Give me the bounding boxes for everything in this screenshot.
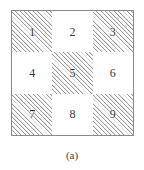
- three-by-three-grid: 1 2 3 4 5 6 7 8 9: [11, 10, 134, 136]
- figure-caption: (a): [0, 148, 144, 162]
- grid-cell-label-7: 7: [29, 108, 35, 120]
- grid-cell-label-5: 5: [69, 67, 75, 79]
- grid-cell-8: 8: [52, 94, 92, 135]
- grid-cell-3: 3: [93, 11, 133, 52]
- grid-cell-1: 1: [12, 11, 52, 52]
- grid-cell-label-6: 6: [110, 67, 116, 79]
- grid-cell-label-4: 4: [29, 67, 35, 79]
- grid-cell-9: 9: [93, 94, 133, 135]
- grid-cell-6: 6: [93, 52, 133, 93]
- grid-cell-5: 5: [52, 52, 92, 93]
- figure-panel-a: 1 2 3 4 5 6 7 8 9 (a): [0, 0, 144, 170]
- grid-cell-4: 4: [12, 52, 52, 93]
- grid-cell-2: 2: [52, 11, 92, 52]
- grid-cell-label-1: 1: [29, 26, 35, 38]
- grid-cell-7: 7: [12, 94, 52, 135]
- grid-cell-label-2: 2: [69, 26, 75, 38]
- grid-cell-label-9: 9: [110, 108, 116, 120]
- grid-cell-label-3: 3: [110, 26, 116, 38]
- grid-cell-label-8: 8: [69, 108, 75, 120]
